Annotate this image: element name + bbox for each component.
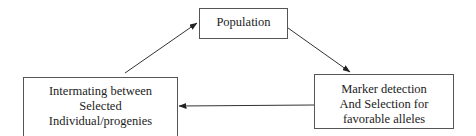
node-marker-line-1: Marker detection — [341, 82, 427, 97]
node-intermating-line-3: Individual/progenies — [49, 114, 152, 129]
node-intermating-line-1: Intermating between — [49, 84, 152, 99]
node-marker-line-3: favorable alleles — [343, 112, 425, 127]
node-marker-detection: Marker detection And Selection for favor… — [314, 74, 454, 129]
node-intermating-line-2: Selected — [79, 99, 121, 114]
arrow-marker-to-intermating — [179, 105, 314, 106]
marker-assisted-selection-cycle-diagram: Population Marker detection And Selectio… — [0, 0, 476, 136]
arrow-intermating-to-population — [125, 23, 197, 73]
node-marker-line-2: And Selection for — [340, 97, 429, 112]
node-population-label: Population — [216, 15, 270, 30]
node-intermating: Intermating between Selected Individual/… — [23, 77, 178, 136]
arrow-population-to-marker — [288, 28, 350, 72]
node-population: Population — [199, 8, 288, 39]
